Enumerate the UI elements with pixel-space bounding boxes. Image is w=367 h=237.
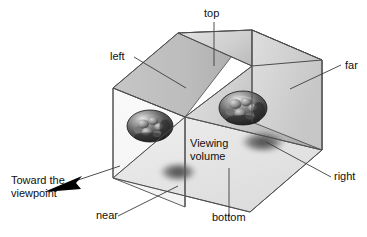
label-toward-viewpoint-line1: Toward the — [11, 174, 65, 187]
sphere-near — [127, 110, 173, 142]
sphere-far — [219, 91, 267, 125]
label-top: top — [204, 7, 219, 19]
label-near: near — [96, 209, 118, 221]
sphere-shadow-far — [238, 130, 288, 154]
label-right: right — [334, 170, 355, 182]
viewing-volume-illustration — [0, 0, 367, 237]
label-far: far — [345, 59, 358, 71]
sphere-shadow-near — [157, 161, 199, 183]
figure-viewing-volume: top left far right near bottom Viewing v… — [0, 0, 367, 237]
label-toward-viewpoint-line2: viewpoint — [11, 187, 57, 200]
label-viewing-volume-line2: volume — [190, 150, 225, 163]
label-viewing-volume-line1: Viewing — [190, 137, 228, 150]
label-left: left — [110, 50, 125, 62]
label-bottom: bottom — [212, 211, 246, 223]
